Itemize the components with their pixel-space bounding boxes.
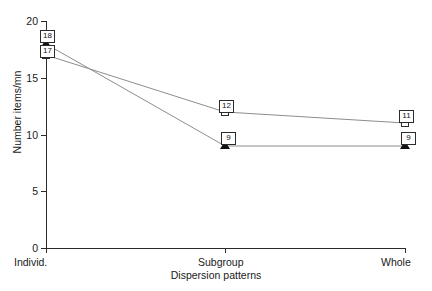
point-label-whole-11: 11 bbox=[399, 110, 414, 123]
point-label-subgroup-12: 12 bbox=[219, 100, 234, 113]
y-tick-label-0: 0 bbox=[6, 243, 38, 253]
x-tick-mark-subgroup bbox=[225, 248, 226, 253]
y-tick-0: 0 bbox=[0, 243, 38, 253]
x-tick-mark-whole bbox=[405, 248, 406, 253]
x-axis-title: Dispersion patterns bbox=[0, 269, 432, 281]
y-tick-20: 20 bbox=[0, 16, 38, 26]
x-tick-mark-individ bbox=[46, 248, 47, 253]
x-tick-label-individ: Individ. bbox=[14, 256, 47, 268]
y-tick-mark-15 bbox=[41, 78, 46, 79]
point-label-subgroup-9: 9 bbox=[221, 132, 236, 145]
x-tick-label-whole: Whole bbox=[381, 256, 411, 268]
y-axis-title: Number items/mn bbox=[11, 32, 23, 192]
y-tick-mark-20 bbox=[41, 21, 46, 22]
series-filled-triangle-line bbox=[46, 44, 405, 146]
x-axis-line bbox=[46, 248, 406, 249]
line-chart-figure: 0 5 10 15 20 Individ. Subgroup Whole Num… bbox=[0, 0, 432, 291]
y-tick-mark-5 bbox=[41, 191, 46, 192]
x-tick-label-subgroup: Subgroup bbox=[198, 256, 244, 268]
point-label-whole-9: 9 bbox=[401, 132, 416, 145]
point-label-individ-17: 17 bbox=[40, 45, 55, 58]
point-label-individ-18: 18 bbox=[40, 30, 55, 43]
y-tick-mark-10 bbox=[41, 135, 46, 136]
y-tick-label-20: 20 bbox=[6, 16, 38, 26]
